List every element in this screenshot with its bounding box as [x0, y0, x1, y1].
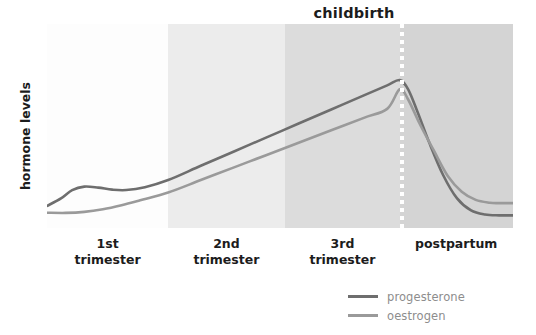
x-axis-label-2: 3rd trimester: [309, 236, 375, 267]
x-axis-label-0: 1st trimester: [75, 236, 141, 267]
legend-item-progesterone: progesterone: [348, 289, 465, 304]
x-axis-labels: 1st trimester2nd trimester3rd trimesterp…: [47, 236, 513, 276]
y-axis-label-text: hormone levels: [18, 82, 33, 190]
legend-item-oestrogen: oestrogen: [348, 308, 465, 323]
chart-legend: progesteroneoestrogen: [348, 289, 465, 323]
childbirth-marker-line: [400, 24, 404, 228]
plot-area: [47, 24, 513, 228]
hormone-levels-chart: childbirth hormone levels 1st trimester2…: [0, 0, 536, 335]
legend-label-oestrogen: oestrogen: [387, 309, 446, 323]
legend-swatch-oestrogen: [348, 314, 378, 317]
x-axis-label-3: postpartum: [415, 236, 497, 252]
series-curves: [47, 24, 513, 228]
series-line-progesterone: [47, 80, 513, 215]
y-axis-label: hormone levels: [6, 93, 46, 179]
series-line-oestrogen: [47, 89, 513, 213]
legend-swatch-progesterone: [348, 295, 378, 298]
x-axis-label-1: 2nd trimester: [193, 236, 259, 267]
childbirth-label: childbirth: [314, 5, 395, 21]
legend-label-progesterone: progesterone: [387, 290, 465, 304]
